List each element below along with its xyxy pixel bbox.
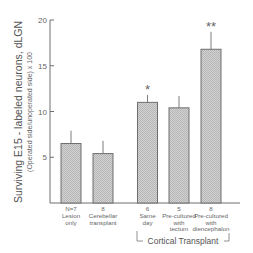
n-label: 8 [101,205,105,212]
n-label: 5 [177,205,181,212]
bar [138,102,158,203]
y-tick-label: 15 [38,62,47,71]
category-label: transplant [89,219,116,226]
bars-group: *** [61,19,221,203]
y-axis-label: Surviving E15 - labeled neurons, dLGN (O… [12,21,34,203]
y-axis-title: Surviving E15 - labeled neurons, dLGN [12,21,24,203]
n-label: N=7 [65,205,77,212]
cortical-transplant-bracket: Cortical Transplant [137,231,229,246]
y-tick-label: 5 [43,153,48,162]
significance-marker: ** [206,19,216,34]
category-label: diencephalon [193,225,230,232]
significance-marker: * [145,82,150,97]
bar [93,154,113,203]
category-label: only [65,219,77,226]
y-axis-ticks: 5101520 [38,16,54,162]
group-label: Cortical Transplant [148,236,220,246]
bar [169,108,189,203]
y-axis-subtitle: (Operated side/unoperated side) x 100 [26,52,34,172]
bar [201,49,221,203]
n-label: 6 [146,205,150,212]
category-label: day [143,219,154,226]
bar-chart: Surviving E15 - labeled neurons, dLGN (O… [0,0,253,253]
category-label: tectum [170,225,189,232]
y-tick-label: 20 [38,16,47,25]
category-labels: N=7Lesiononly8Cerebellartransplant6Samed… [62,205,230,232]
bar [61,144,81,203]
y-tick-label: 10 [38,108,47,117]
n-label: 8 [209,205,213,212]
